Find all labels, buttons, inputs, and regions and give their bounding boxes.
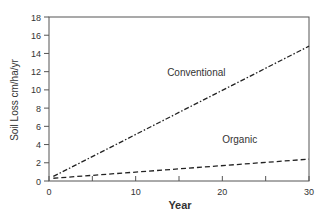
- y-tick-label: 12: [31, 67, 41, 77]
- y-tick-label: 8: [36, 104, 41, 114]
- y-tick-label: 14: [31, 49, 41, 59]
- x-tick-label: 30: [304, 187, 314, 197]
- series-lines: [53, 46, 309, 178]
- y-tick-label: 18: [31, 13, 41, 23]
- x-tick-label: 10: [131, 187, 141, 197]
- label-organic: Organic: [222, 134, 257, 145]
- y-tick-label: 16: [31, 31, 41, 41]
- x-tick-label: 0: [46, 187, 51, 197]
- axes: 0246810121416180102030: [31, 13, 314, 198]
- x-tick-label: 20: [217, 187, 227, 197]
- line-organic: [53, 159, 309, 178]
- x-axis-label: Year: [168, 199, 192, 211]
- soil-loss-chart: 0246810121416180102030 ConventionalOrgan…: [0, 0, 329, 215]
- y-tick-label: 10: [31, 85, 41, 95]
- y-tick-label: 6: [36, 122, 41, 132]
- y-tick-label: 4: [36, 140, 41, 150]
- y-axis-label: Soil Loss cm/ha/yr: [9, 58, 20, 140]
- plot-frame: [49, 17, 309, 181]
- line-conventional: [53, 46, 309, 176]
- y-tick-label: 0: [36, 177, 41, 187]
- label-conventional: Conventional: [167, 67, 225, 78]
- y-tick-label: 2: [36, 158, 41, 168]
- chart-svg: 0246810121416180102030 ConventionalOrgan…: [0, 0, 329, 215]
